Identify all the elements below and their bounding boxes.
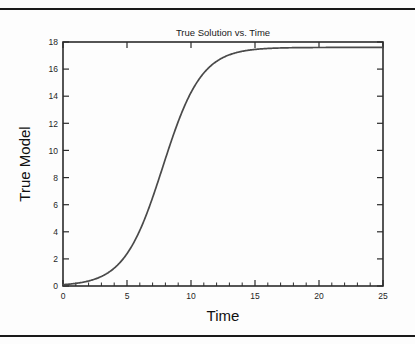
x-axis-ticks (63, 42, 383, 286)
x-tick-labels: 0 5 10 15 20 25 (61, 291, 388, 301)
y-tick-label: 16 (49, 64, 59, 74)
figure-page: True Solution vs. Time (0, 0, 415, 344)
x-tick-label: 25 (378, 291, 388, 301)
y-tick-label: 12 (49, 119, 59, 129)
plot-frame (63, 42, 383, 286)
chart-title: True Solution vs. Time (176, 27, 270, 38)
y-tick-label: 6 (53, 200, 58, 210)
x-axis-title: Time (207, 307, 240, 324)
y-tick-label: 18 (49, 37, 59, 47)
y-tick-label: 14 (49, 91, 59, 101)
y-axis-title: True Model (16, 126, 33, 201)
y-tick-label: 2 (53, 254, 58, 264)
x-tick-label: 5 (125, 291, 130, 301)
x-tick-label: 20 (314, 291, 324, 301)
y-tick-label: 4 (53, 227, 58, 237)
y-tick-label: 0 (53, 281, 58, 291)
y-tick-label: 8 (53, 173, 58, 183)
top-horizontal-rule (0, 8, 415, 10)
x-tick-label: 10 (186, 291, 196, 301)
x-tick-label: 0 (61, 291, 66, 301)
x-tick-label: 15 (250, 291, 260, 301)
line-chart: True Solution vs. Time (0, 12, 415, 332)
bottom-horizontal-rule (0, 335, 415, 337)
y-tick-labels: 0 2 4 6 8 10 12 14 16 18 (49, 37, 59, 291)
series-line-true-model (63, 47, 383, 284)
y-axis-ticks (63, 42, 383, 286)
chart-figure: True Solution vs. Time (0, 12, 415, 332)
y-tick-label: 10 (49, 146, 59, 156)
